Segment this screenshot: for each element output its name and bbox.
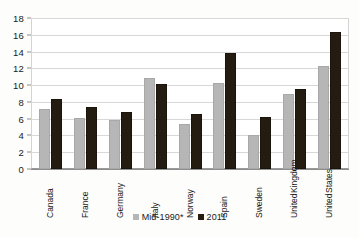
bar-group: [312, 18, 347, 169]
y-tick-label: 8: [19, 96, 24, 107]
y-tick-label: 4: [19, 130, 24, 141]
x-axis-label-cell: Canada: [33, 170, 68, 218]
chart-legend: Mid-1990*2011: [0, 212, 359, 222]
bar: [225, 53, 236, 169]
legend-item: Mid-1990*: [133, 212, 184, 222]
bar: [74, 118, 85, 169]
bar: [109, 120, 120, 169]
bar: [144, 78, 155, 169]
bar-group: [207, 18, 242, 169]
legend-item: 2011: [198, 212, 227, 222]
x-axis-label-cell: UnitedKingdom: [277, 170, 312, 218]
x-axis-label-line: Kingdom: [290, 160, 299, 194]
bar: [248, 135, 259, 169]
x-axis-label-cell: France: [68, 170, 103, 218]
bar: [179, 124, 190, 169]
bar: [295, 89, 306, 169]
bar: [213, 83, 224, 169]
x-axis: CanadaFranceGermanyItalyNorwaySpainSwede…: [31, 170, 349, 218]
y-tick-label: 12: [13, 63, 24, 74]
y-tick-label: 10: [13, 80, 24, 91]
bar-group: [242, 18, 277, 169]
bar: [260, 117, 271, 169]
bars-layer: [31, 18, 349, 169]
bar-group: [68, 18, 103, 169]
bar: [283, 94, 294, 170]
legend-label: 2011: [207, 212, 227, 222]
bar: [121, 112, 132, 169]
legend-swatch-icon: [198, 214, 204, 220]
bar: [39, 109, 50, 169]
bar: [191, 114, 202, 169]
bar-group: [33, 18, 68, 169]
bar-chart: 181614121086420 CanadaFranceGermanyItaly…: [0, 0, 359, 237]
x-axis-label-cell: UnitedStates: [312, 170, 347, 218]
bar-group: [138, 18, 173, 169]
x-axis-label-cell: Sweden: [242, 170, 277, 218]
bar: [318, 66, 329, 169]
legend-label: Mid-1990*: [142, 212, 184, 222]
x-axis-label-cell: Norway: [173, 170, 208, 218]
y-tick-label: 2: [19, 147, 24, 158]
x-axis-label-line: States: [325, 169, 334, 193]
y-tick-label: 18: [13, 13, 24, 24]
y-axis: 181614121086420: [0, 10, 31, 170]
bar: [330, 32, 341, 169]
x-axis-label-cell: Spain: [207, 170, 242, 218]
y-tick-label: 6: [19, 113, 24, 124]
bar: [51, 99, 62, 169]
bar-group: [173, 18, 208, 169]
bar-group: [103, 18, 138, 169]
x-axis-label-cell: Germany: [103, 170, 138, 218]
bar: [156, 84, 167, 169]
bar: [86, 107, 97, 169]
y-tick-label: 16: [13, 29, 24, 40]
bar-group: [277, 18, 312, 169]
legend-swatch-icon: [133, 214, 139, 220]
y-tick-label: 0: [19, 164, 24, 175]
x-axis-label-cell: Italy: [138, 170, 173, 218]
y-tick-label: 14: [13, 46, 24, 57]
plot-wrapper: [31, 18, 349, 169]
